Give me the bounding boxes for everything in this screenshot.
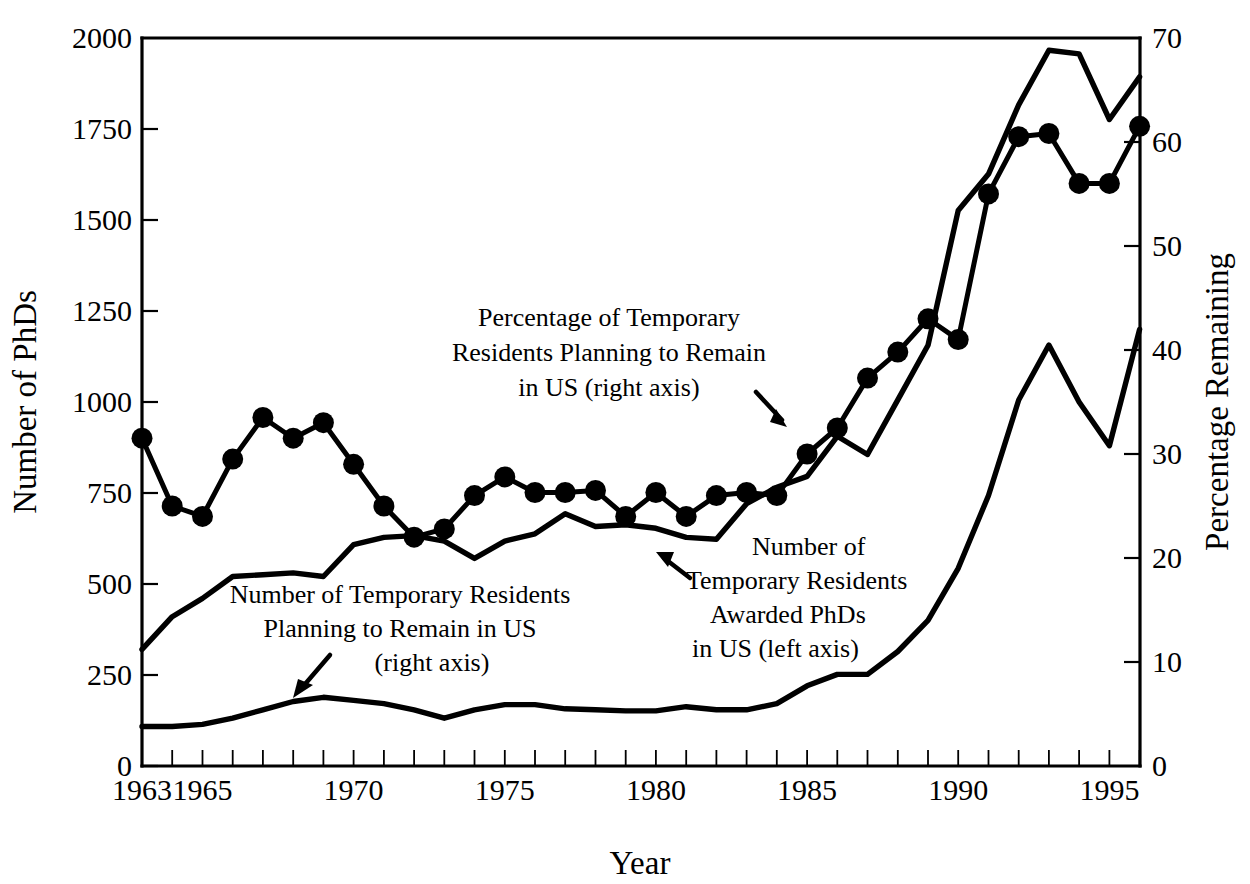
x-tick-label-1975: 1975 (475, 773, 535, 806)
y-tick-label-2000: 2000 (72, 21, 132, 54)
y-tick-label-500: 500 (87, 567, 132, 600)
y2-tick-label-0: 0 (1152, 749, 1167, 782)
annotation-planning-line-1: Number of Temporary Residents (230, 580, 571, 609)
annotation-number-planning-remain: Number of Temporary Residents Planning t… (230, 580, 571, 698)
annotation-phds-line-2: Temporary Residents (686, 566, 907, 595)
annotation-percentage-remaining: Percentage of Temporary Residents Planni… (452, 303, 787, 427)
y2-tick-label-50: 50 (1152, 229, 1182, 262)
x-tick-label-1970: 1970 (324, 773, 384, 806)
annotation-planning-line-3: (right axis) (375, 648, 490, 677)
y2-tick-label-20: 20 (1152, 541, 1182, 574)
y2-tick-label-40: 40 (1152, 333, 1182, 366)
y-tick-label-1000: 1000 (72, 385, 132, 418)
y-tick-label-750: 750 (87, 476, 132, 509)
annotation-percentage-arrow (756, 392, 787, 427)
annotation-number-phds: Number of Temporary Residents Awarded Ph… (656, 532, 907, 663)
y-tick-label-1750: 1750 (72, 112, 132, 145)
x-tick-label-1995: 1995 (1079, 773, 1139, 806)
chart-svg: 2000 1750 1500 1250 1000 750 500 250 0 7… (0, 0, 1250, 884)
y2-tick-label-60: 60 (1152, 125, 1182, 158)
x-tick-label-1963: 1963 (112, 773, 172, 806)
annotation-planning-line-2: Planning to Remain in US (264, 614, 537, 643)
y2-tick-label-30: 30 (1152, 437, 1182, 470)
annotation-percentage-line-3: in US (right axis) (518, 373, 699, 402)
annotation-percentage-line-2: Residents Planning to Remain (452, 338, 766, 367)
x-axis-labels: 1963 1965 1970 1975 1980 1985 1990 1995 (112, 773, 1139, 806)
y-tick-label-1250: 1250 (72, 294, 132, 327)
y-axis-title-left: Number of PhDs (7, 290, 43, 514)
x-axis-ticks (142, 750, 1140, 766)
x-tick-label-1990: 1990 (928, 773, 988, 806)
x-tick-label-1980: 1980 (626, 773, 686, 806)
x-axis-title: Year (610, 845, 671, 881)
annotation-phds-line-4: in US (left axis) (692, 634, 859, 663)
chart-figure: 2000 1750 1500 1250 1000 750 500 250 0 7… (0, 0, 1250, 884)
x-tick-label-1965: 1965 (173, 773, 233, 806)
annotation-percentage-line-1: Percentage of Temporary (478, 303, 740, 332)
y-axis-right-labels: 70 60 50 40 30 20 10 0 (1152, 21, 1182, 782)
y-axis-left-labels: 2000 1750 1500 1250 1000 750 500 250 0 (72, 21, 132, 782)
plot-frame (142, 38, 1140, 766)
y-axis-title-right: Percentage Remaining (1199, 253, 1235, 551)
y-tick-label-1500: 1500 (72, 203, 132, 236)
y2-tick-label-70: 70 (1152, 21, 1182, 54)
x-tick-label-1985: 1985 (777, 773, 837, 806)
y2-tick-label-10: 10 (1152, 645, 1182, 678)
y-tick-label-250: 250 (87, 658, 132, 691)
y-axis-right-ticks (1124, 142, 1140, 662)
annotation-phds-arrow (656, 552, 690, 578)
annotation-phds-line-3: Awarded PhDs (710, 600, 866, 629)
annotation-phds-line-1: Number of (752, 532, 866, 561)
annotation-planning-arrow (293, 655, 330, 698)
